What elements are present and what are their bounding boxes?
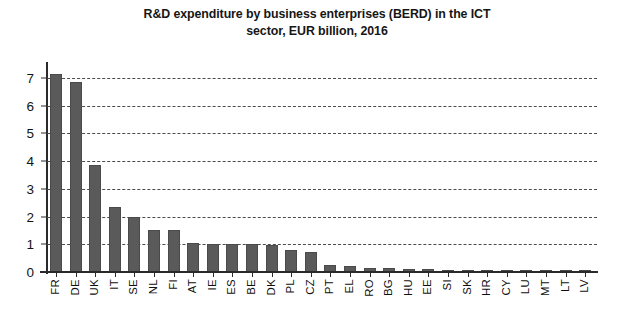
x-axis-tick-mark	[76, 272, 77, 277]
x-axis-tick-mark	[350, 272, 351, 277]
x-axis-tick-label: CY	[501, 279, 512, 295]
y-axis-tick-label: 3	[26, 181, 34, 196]
x-axis-tick-label: EE	[422, 279, 433, 295]
y-axis-tick-label: 0	[26, 265, 34, 280]
bar	[187, 243, 199, 272]
gridline	[47, 189, 597, 190]
x-axis-line	[40, 271, 598, 273]
bar-chart-figure: R&D expenditure by business enterprises …	[0, 0, 633, 319]
x-axis-tick-label: FR	[50, 279, 61, 295]
bar	[50, 74, 62, 272]
y-axis-tick-label: 1	[26, 237, 34, 252]
x-axis-tick-label: PL	[285, 279, 296, 294]
x-axis-tick-mark	[468, 272, 469, 277]
x-axis-tick-label: ES	[226, 279, 237, 295]
x-axis-tick-mark	[311, 272, 312, 277]
x-axis-tick-mark	[272, 272, 273, 277]
bar	[109, 207, 121, 272]
x-axis-tick-label: MT	[540, 279, 551, 296]
x-axis-tick-label: SI	[442, 279, 453, 290]
bar	[89, 165, 101, 272]
gridline	[47, 106, 597, 107]
y-axis-tick-label: 7	[26, 71, 34, 86]
x-axis-tick-label: IE	[207, 279, 218, 290]
bar	[207, 244, 219, 272]
x-axis-tick-mark	[487, 272, 488, 277]
x-axis-tick-label: IT	[109, 279, 120, 290]
x-axis-tick-label: NL	[148, 279, 159, 294]
x-axis-tick-mark	[428, 272, 429, 277]
x-axis-tick-mark	[56, 272, 57, 277]
x-axis-tick-mark	[546, 272, 547, 277]
x-axis-tick-mark	[507, 272, 508, 277]
bar	[148, 230, 160, 272]
bar	[128, 217, 140, 272]
bar	[266, 245, 278, 272]
x-axis-tick-label: LT	[560, 279, 571, 292]
x-axis-tick-label: EL	[344, 279, 355, 294]
x-axis-tick-mark	[448, 272, 449, 277]
x-axis-tick-label: LU	[520, 279, 531, 294]
x-axis-tick-label: HU	[403, 279, 414, 296]
x-axis-tick-label: DE	[70, 279, 81, 295]
x-axis-tick-mark	[330, 272, 331, 277]
x-axis-tick-mark	[232, 272, 233, 277]
x-axis-tick-label: UK	[89, 279, 100, 295]
x-axis-tick-label: SK	[462, 279, 473, 295]
x-axis-tick-label: DK	[266, 279, 277, 295]
gridline	[47, 161, 597, 162]
x-axis-tick-mark	[566, 272, 567, 277]
x-axis-tick-mark	[585, 272, 586, 277]
chart-title: R&D expenditure by business enterprises …	[52, 6, 582, 40]
x-axis-tick-mark	[174, 272, 175, 277]
x-axis-tick-label: CZ	[305, 279, 316, 295]
x-axis-tick-mark	[370, 272, 371, 277]
x-axis-tick-mark	[526, 272, 527, 277]
y-axis-tick-label: 5	[26, 126, 34, 141]
x-axis-tick-label: BG	[383, 279, 394, 296]
bar	[246, 244, 258, 272]
x-axis-tick-mark	[95, 272, 96, 277]
x-axis-tick-mark	[115, 272, 116, 277]
x-axis-tick-label: BE	[246, 279, 257, 295]
gridline	[47, 133, 597, 134]
plot-area	[47, 67, 597, 272]
x-axis-tick-mark	[409, 272, 410, 277]
x-axis-tick-mark	[213, 272, 214, 277]
x-axis-tick-mark	[252, 272, 253, 277]
y-axis-tick-label: 4	[26, 154, 34, 169]
x-axis-tick-mark	[389, 272, 390, 277]
x-axis-tick-label: SE	[128, 279, 139, 295]
x-axis-tick-label: FI	[168, 279, 179, 290]
x-axis-tick-mark	[154, 272, 155, 277]
bar	[226, 244, 238, 272]
x-axis-tick-label: RO	[364, 279, 375, 297]
chart-title-line-1: R&D expenditure by business enterprises …	[52, 6, 582, 23]
x-axis-tick-label: AT	[187, 279, 198, 293]
bar	[168, 230, 180, 272]
x-axis-tick-label: LV	[579, 279, 590, 293]
bar	[305, 252, 317, 272]
x-axis-tick-label: PT	[324, 279, 335, 294]
y-axis-tick-label: 6	[26, 98, 34, 113]
x-axis-tick-mark	[193, 272, 194, 277]
bar	[285, 250, 297, 272]
x-axis-tick-mark	[291, 272, 292, 277]
y-axis-tick-label: 2	[26, 209, 34, 224]
x-axis-tick-label: HR	[481, 279, 492, 296]
gridline	[47, 78, 597, 79]
x-axis-tick-mark	[134, 272, 135, 277]
chart-title-line-2: sector, EUR billion, 2016	[52, 23, 582, 40]
bar	[70, 82, 82, 272]
